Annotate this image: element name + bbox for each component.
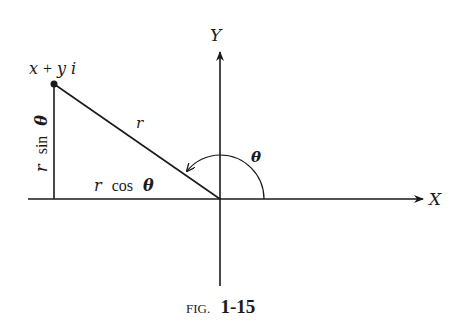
- vertical-leg-sin: sin: [33, 136, 50, 155]
- caption-prefix: FIG.: [186, 301, 210, 316]
- horizontal-leg-label: r cos θ: [94, 176, 154, 195]
- figure-caption: FIG. 1-15: [186, 296, 255, 317]
- vertical-leg-label: r sin θ: [32, 115, 51, 172]
- point-label-i: i: [71, 59, 76, 78]
- polar-form-diagram: Y X x + y i r θ r cos θ r sin θ FIG. 1-1…: [0, 0, 467, 326]
- horizontal-leg-theta: θ: [143, 176, 154, 195]
- vertical-leg-r: r: [32, 163, 51, 172]
- angle-label: θ: [251, 148, 261, 166]
- radius-label: r: [136, 114, 144, 132]
- point-label-x: x: [29, 59, 38, 78]
- horizontal-leg-cos: cos: [112, 177, 133, 194]
- point-dot: [51, 81, 58, 88]
- caption-number: 1-15: [220, 296, 255, 317]
- horizontal-leg-r: r: [94, 176, 103, 195]
- point-label: x + y i: [29, 59, 76, 78]
- point-label-y: y: [56, 59, 67, 78]
- radius-line: [54, 84, 220, 199]
- x-axis-label: X: [427, 189, 442, 209]
- point-label-plus: +: [43, 60, 52, 77]
- y-axis-label: Y: [210, 25, 223, 45]
- vertical-leg-theta: θ: [32, 115, 51, 126]
